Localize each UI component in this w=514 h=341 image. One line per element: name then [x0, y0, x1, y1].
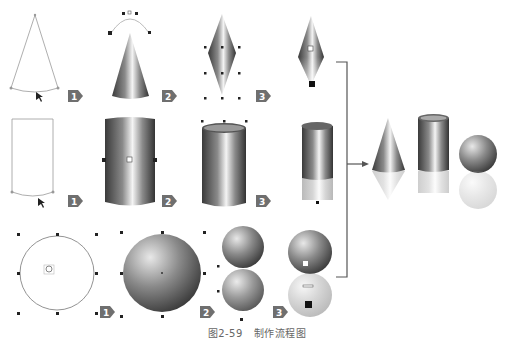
- cone-step-4: [298, 16, 324, 87]
- figure-caption: 图2-59 制作流程图: [0, 325, 514, 340]
- svg-text:3: 3: [276, 308, 282, 318]
- sphere-step-3: [217, 226, 264, 321]
- result-shapes: [372, 114, 497, 209]
- cursor-icon: [38, 198, 45, 208]
- svg-text:3: 3: [259, 92, 265, 102]
- svg-text:1: 1: [103, 308, 109, 318]
- svg-text:1: 1: [71, 197, 77, 207]
- caption-title: 制作流程图: [254, 328, 307, 339]
- cursor-icon: [36, 92, 43, 102]
- step-badge-1: 1: [68, 90, 83, 102]
- step-badge-2: 2: [200, 306, 215, 318]
- flow-diagram: 1 2 3 1 2: [0, 0, 514, 341]
- merge-bracket: [336, 62, 364, 277]
- step-badge-2: 2: [162, 90, 177, 102]
- cone-step-1: [10, 14, 60, 102]
- cylinder-step-1: [11, 119, 55, 208]
- ellipse-tool-icon: [44, 265, 54, 274]
- step-badge-2: 2: [162, 195, 177, 207]
- cylinder-step-4: [302, 122, 334, 204]
- cylinder-step-3: [201, 120, 248, 207]
- cylinder-step-2: [102, 117, 157, 206]
- step-badge-3: 3: [273, 306, 288, 318]
- svg-text:2: 2: [165, 197, 171, 207]
- sphere-step-2: [120, 231, 206, 318]
- step-badge-3: 3: [256, 195, 271, 207]
- cone-step-2: [108, 11, 151, 99]
- sphere-step-1: [17, 233, 98, 315]
- svg-text:2: 2: [203, 308, 209, 318]
- step-badge-1: 1: [68, 195, 83, 207]
- step-badge-1: 1: [100, 306, 115, 318]
- caption-number: 图2-59: [208, 328, 243, 339]
- svg-text:1: 1: [71, 92, 77, 102]
- step-badge-3: 3: [256, 90, 271, 102]
- sphere-step-4: [288, 230, 332, 317]
- cone-step-3: [204, 14, 241, 100]
- arrow-right-icon: [362, 161, 369, 167]
- svg-text:2: 2: [165, 92, 171, 102]
- svg-text:3: 3: [259, 197, 265, 207]
